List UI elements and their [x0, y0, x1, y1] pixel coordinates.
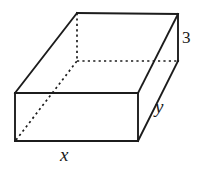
height-label: 3 — [182, 29, 191, 46]
top-back-edge — [77, 13, 178, 14]
depth-label: y — [155, 97, 163, 116]
width-label: x — [60, 145, 68, 164]
prism-drawing — [0, 0, 206, 169]
prism-figure: 3 y x — [0, 0, 206, 169]
